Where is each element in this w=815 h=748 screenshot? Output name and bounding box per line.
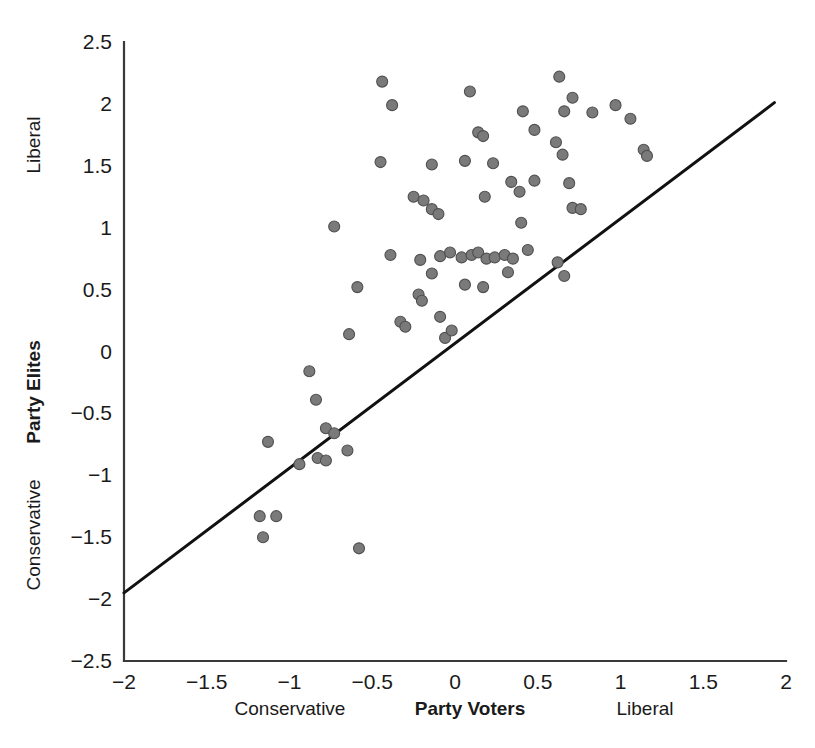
scatter-point xyxy=(375,157,386,168)
y-tick-label: −1 xyxy=(88,463,112,486)
x-tick-label: 0 xyxy=(449,670,461,693)
scatter-point xyxy=(506,176,517,187)
scatter-point xyxy=(478,282,489,293)
scatter-point xyxy=(575,204,586,215)
y-tick-label: −0.5 xyxy=(71,401,112,424)
scatter-point xyxy=(426,268,437,279)
scatter-point xyxy=(329,428,340,439)
scatter-point xyxy=(262,436,273,447)
scatter-point xyxy=(529,124,540,135)
scatter-point xyxy=(304,366,315,377)
scatter-point xyxy=(415,254,426,265)
scatter-point xyxy=(564,178,575,189)
y-tick-label: −1.5 xyxy=(71,525,112,548)
scatter-point xyxy=(377,76,388,87)
x-axis-anchor-liberal: Liberal xyxy=(616,698,673,719)
scatter-point xyxy=(387,100,398,111)
scatter-point xyxy=(416,295,427,306)
y-tick-label: −2 xyxy=(88,587,112,610)
x-axis-tick-labels: −2−1.5−1−0.500.511.52 xyxy=(112,670,792,693)
x-tick-label: −2 xyxy=(112,670,136,693)
scatter-point xyxy=(294,459,305,470)
scatter-point xyxy=(400,321,411,332)
y-axis-title: Party Elites xyxy=(23,340,44,444)
x-tick-label: 1 xyxy=(615,670,627,693)
scatter-point xyxy=(408,191,419,202)
scatter-point xyxy=(502,267,513,278)
y-tick-label: 2.5 xyxy=(83,30,112,53)
scatter-point xyxy=(587,107,598,118)
scatter-point xyxy=(320,455,331,466)
y-tick-label: 0 xyxy=(100,340,112,363)
scatter-point xyxy=(507,253,518,264)
scatter-point xyxy=(352,282,363,293)
scatter-point xyxy=(641,150,652,161)
x-tick-label: −0.5 xyxy=(352,670,393,693)
scatter-point xyxy=(489,252,500,263)
scatter-point xyxy=(479,191,490,202)
scatter-point xyxy=(516,217,527,228)
scatter-point xyxy=(567,92,578,103)
scatter-point xyxy=(456,252,467,263)
scatter-point xyxy=(478,131,489,142)
scatter-point xyxy=(426,159,437,170)
scatter-point xyxy=(435,251,446,262)
scatter-point xyxy=(418,195,429,206)
scatter-point xyxy=(559,270,570,281)
x-tick-label: −1 xyxy=(278,670,302,693)
scatter-point xyxy=(344,329,355,340)
scatter-point xyxy=(464,86,475,97)
x-tick-label: 0.5 xyxy=(523,670,552,693)
scatter-point xyxy=(514,186,525,197)
scatter-point xyxy=(258,532,269,543)
scatter-point xyxy=(559,106,570,117)
x-tick-label: 1.5 xyxy=(689,670,718,693)
scatter-point xyxy=(552,257,563,268)
scatter-point xyxy=(529,175,540,186)
scatter-point xyxy=(522,244,533,255)
scatter-point xyxy=(517,106,528,117)
scatter-point xyxy=(435,311,446,322)
y-tick-label: 2 xyxy=(100,92,112,115)
scatter-point xyxy=(459,155,470,166)
scatter-point xyxy=(445,247,456,258)
y-axis-anchor-conservative: Conservative xyxy=(23,480,44,591)
scatter-point xyxy=(550,137,561,148)
scatter-point xyxy=(610,100,621,111)
scatter-point xyxy=(625,113,636,124)
scatter-point xyxy=(310,394,321,405)
scatter-plot-figure: 2.521.510.50−0.5−1−1.5−2−2.5 −2−1.5−1−0.… xyxy=(0,0,815,748)
x-tick-label: 2 xyxy=(780,670,792,693)
plot-background xyxy=(0,0,815,748)
scatter-point xyxy=(354,543,365,554)
scatter-point xyxy=(254,511,265,522)
scatter-point xyxy=(433,209,444,220)
scatter-point xyxy=(385,249,396,260)
y-tick-label: 1 xyxy=(100,216,112,239)
y-tick-label: 1.5 xyxy=(83,154,112,177)
y-tick-label: −2.5 xyxy=(71,649,112,672)
x-tick-label: −1.5 xyxy=(186,670,227,693)
x-axis-anchor-conservative: Conservative xyxy=(235,698,346,719)
scatter-point xyxy=(271,511,282,522)
scatter-point xyxy=(459,279,470,290)
scatter-point xyxy=(329,221,340,232)
x-axis-title: Party Voters xyxy=(415,698,526,719)
y-tick-label: 0.5 xyxy=(83,278,112,301)
scatter-point xyxy=(446,325,457,336)
party-elites-vs-party-voters-scatter: 2.521.510.50−0.5−1−1.5−2−2.5 −2−1.5−1−0.… xyxy=(0,0,815,748)
scatter-point xyxy=(554,71,565,82)
y-axis-anchor-liberal: Liberal xyxy=(23,116,44,173)
scatter-point xyxy=(557,149,568,160)
scatter-point xyxy=(342,445,353,456)
scatter-point xyxy=(488,158,499,169)
